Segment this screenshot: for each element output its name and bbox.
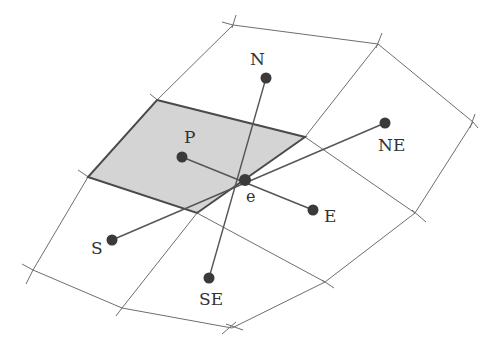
node-s xyxy=(107,235,118,246)
label-e-east: E xyxy=(324,206,336,226)
grid-tick xyxy=(222,322,236,334)
grid-line-top xyxy=(222,22,478,128)
label-face-e: e xyxy=(246,187,255,206)
grid-line-left-radial xyxy=(33,177,88,270)
node-n xyxy=(261,73,272,84)
grid-line-lower-middle xyxy=(197,213,325,282)
label-p: P xyxy=(184,127,195,147)
grid-line-radial-2 xyxy=(305,44,378,137)
grid-line-radial-1 xyxy=(157,25,233,100)
label-ne: NE xyxy=(378,135,405,155)
node-e-east xyxy=(308,205,319,216)
node-face-e xyxy=(239,174,251,186)
label-s: S xyxy=(91,238,103,258)
label-n: N xyxy=(250,49,265,69)
grid-tick xyxy=(116,308,122,316)
label-se: SE xyxy=(199,289,223,309)
grid-tick xyxy=(412,210,426,222)
node-p xyxy=(177,152,188,163)
grid-line-bottom xyxy=(22,264,325,328)
grid-line-right-lower xyxy=(325,213,415,282)
grid-line-center-radial xyxy=(122,213,197,308)
grid-tick xyxy=(322,280,334,288)
grid-line-radial-3 xyxy=(415,122,473,213)
node-se xyxy=(204,273,215,284)
stencil-diagram: P N NE E S SE e xyxy=(0,0,494,338)
node-ne xyxy=(380,118,391,129)
control-volume-p xyxy=(88,100,305,213)
grid-tick xyxy=(26,270,33,284)
